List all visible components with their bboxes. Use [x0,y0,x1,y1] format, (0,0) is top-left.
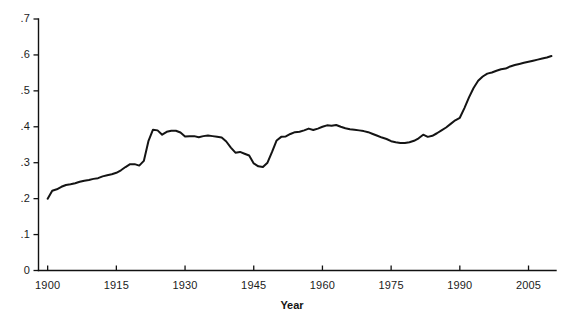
x-tick-label: 1945 [231,279,277,291]
y-tick-label: .2 [8,192,30,204]
line-chart-plot [0,0,569,319]
chart-container: 0.1.2.3.4.5.6.7 190019151930194519601975… [0,0,569,319]
y-tick-label: .4 [8,120,30,132]
x-tick-label: 1960 [299,279,345,291]
x-axis-title: Year [246,299,338,311]
y-tick-label: .6 [8,48,30,60]
series-line-value [48,56,552,199]
x-tick-marks [48,266,529,271]
y-tick-label: .7 [8,12,30,24]
x-tick-label: 1975 [368,279,414,291]
x-tick-label: 2005 [506,279,552,291]
data-series-group [48,56,552,199]
y-tick-label: 0 [8,264,30,276]
axes-group [34,19,557,271]
x-tick-label: 1900 [25,279,71,291]
x-tick-label: 1990 [437,279,483,291]
x-tick-label: 1915 [93,279,139,291]
y-tick-label: .3 [8,156,30,168]
y-tick-label: .5 [8,84,30,96]
y-tick-marks [34,19,39,271]
y-tick-label: .1 [8,228,30,240]
x-tick-label: 1930 [162,279,208,291]
